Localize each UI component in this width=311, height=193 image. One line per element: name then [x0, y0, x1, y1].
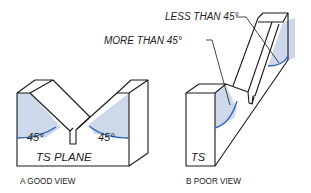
upper-incline-shade — [268, 18, 295, 66]
right-block-side — [129, 80, 148, 166]
ts-plane-label: TS PLANE — [36, 151, 92, 163]
angle-label-left: 45° — [27, 131, 44, 143]
left-block-top — [17, 80, 53, 93]
callout-more-than-45: MORE THAN 45° — [104, 35, 182, 46]
tall-block-top — [258, 13, 288, 22]
caption-a: A GOOD VIEW — [20, 177, 76, 186]
angle-label-right: 45° — [98, 131, 115, 143]
figure-b-poor-view — [186, 13, 295, 166]
right-block-top — [117, 80, 148, 93]
diagram-canvas: 45° 45° TS PLANE A GOOD VIEW LESS THAN 4… — [0, 0, 311, 193]
caption-b: B POOR VIEW — [186, 177, 241, 186]
ts-label: TS — [191, 151, 206, 163]
callout-less-than-45: LESS THAN 45° — [165, 11, 238, 22]
